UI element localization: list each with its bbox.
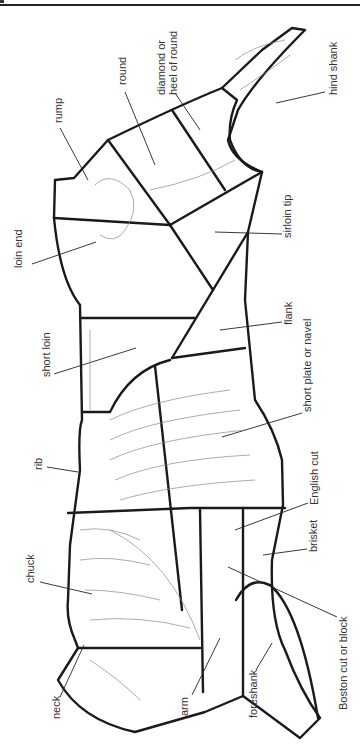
label-short-loin: short loin — [40, 332, 52, 377]
label-short-plate: short plate or navel — [301, 318, 313, 412]
label-flank: flank — [282, 302, 294, 325]
label-sirloin-tip: sirloin tip — [281, 195, 293, 238]
label-diamond: diamond or — [155, 40, 167, 95]
hind-shank-outline — [222, 88, 262, 172]
label-heel-of-round: heel of round — [167, 31, 179, 95]
label-foreshank: foreshank — [247, 670, 259, 718]
label-loin-end: loin end — [12, 229, 24, 268]
label-chuck: chuck — [24, 554, 36, 583]
label-brisket: brisket — [307, 520, 319, 552]
label-arm: arm — [178, 697, 190, 716]
label-rib: rib — [32, 458, 44, 470]
label-boston-cut: Boston cut or block — [337, 616, 349, 710]
label-english-cut: English cut — [308, 451, 320, 505]
label-rump: rump — [52, 98, 64, 123]
label-neck: neck — [50, 696, 62, 719]
label-hind-shank: hind shank — [327, 42, 339, 95]
label-round: round — [116, 57, 128, 85]
